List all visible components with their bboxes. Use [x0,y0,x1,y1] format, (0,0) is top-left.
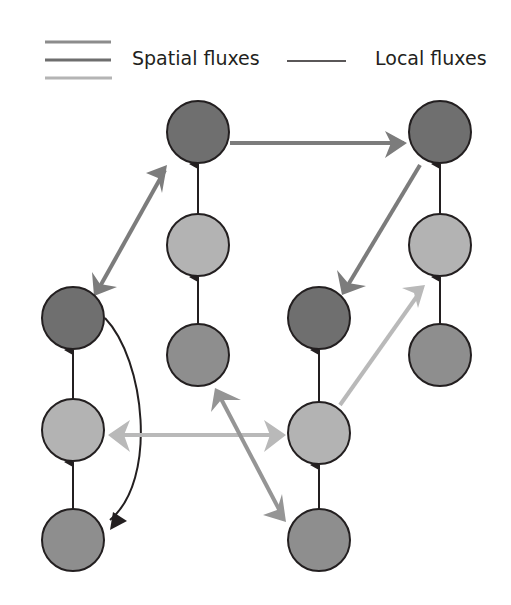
spatial-flux-A2-C2 [108,420,286,452]
node-B3-mid [167,324,229,386]
local-flux-label: Local fluxes [375,47,487,69]
spatial-flux-B3-C3 [211,388,286,522]
node-C3-mid [288,509,350,571]
spatial-flux-legend-icon [45,42,112,78]
nodes [42,101,471,571]
flux-diagram: Spatial fluxes Local fluxes [0,0,511,605]
spatial-flux-B1-D1 [230,131,407,158]
node-D3-mid [409,324,471,386]
node-B2-light [167,214,229,276]
local-flux-A1-A3-curve [105,318,141,520]
spatial-flux-A1-B1 [92,165,167,296]
legend: Spatial fluxes Local fluxes [45,42,487,78]
spatial-flux-label: Spatial fluxes [132,47,260,69]
spatial-fluxes [92,131,425,522]
spatial-flux-D1-C1 [337,165,420,295]
node-D2-light [409,214,471,276]
node-A3-mid [42,509,104,571]
node-A1-dark [42,287,104,349]
node-C1-dark [288,287,350,349]
node-D1-dark [409,101,471,163]
node-A2-light [42,399,104,461]
node-B1-dark [167,101,229,163]
node-C2-light [288,402,350,464]
curve-arrowhead [110,512,127,530]
